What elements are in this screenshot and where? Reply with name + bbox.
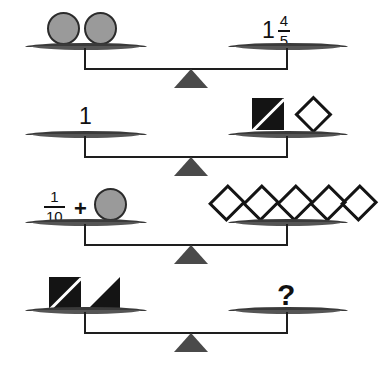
mixed-whole-part: 1 bbox=[262, 17, 275, 44]
pan-shadow bbox=[234, 134, 342, 138]
plus-operator: + bbox=[74, 198, 87, 220]
fulcrum bbox=[174, 69, 208, 88]
right-hanger bbox=[286, 48, 288, 69]
pan-shadow bbox=[31, 134, 141, 138]
circle-weight bbox=[94, 188, 127, 221]
fulcrum bbox=[174, 245, 208, 264]
black-square-with-diagonal-icon bbox=[49, 277, 81, 309]
pan-shadow bbox=[31, 222, 141, 226]
left-hanger bbox=[84, 224, 86, 245]
right-pan bbox=[228, 131, 348, 138]
pan-shadow bbox=[234, 222, 342, 226]
right-hanger bbox=[286, 312, 288, 333]
diamond-icon bbox=[277, 182, 314, 222]
right-pan bbox=[228, 219, 348, 226]
right-pan bbox=[228, 307, 348, 314]
pan-shadow bbox=[31, 46, 141, 50]
right-pan bbox=[228, 43, 348, 50]
fraction-numerator: 1 bbox=[44, 189, 65, 205]
diamond-icon bbox=[294, 95, 332, 133]
balance-puzzle: 1 4 5 1 bbox=[0, 0, 383, 370]
left-hanger bbox=[84, 136, 86, 157]
left-hanger bbox=[84, 312, 86, 333]
balance-row-3: 1 10 + bbox=[0, 176, 383, 264]
diamond-icon bbox=[209, 182, 246, 222]
pan-shadow bbox=[234, 310, 342, 314]
fraction-numerator: 4 bbox=[278, 13, 290, 29]
diagonal-line bbox=[251, 98, 286, 133]
balance-row-4: ? bbox=[0, 264, 383, 352]
circle-weight bbox=[84, 12, 117, 45]
left-hanger bbox=[84, 48, 86, 69]
diamond-outline bbox=[340, 184, 378, 222]
black-triangle-icon bbox=[88, 277, 120, 309]
balance-row-1: 1 4 5 bbox=[0, 0, 383, 88]
balance-row-2: 1 bbox=[0, 88, 383, 176]
left-pan bbox=[25, 307, 147, 314]
right-hanger bbox=[286, 224, 288, 245]
pan-shadow bbox=[31, 310, 141, 314]
black-square-with-diagonal-icon bbox=[252, 98, 284, 130]
pan-shadow bbox=[234, 46, 342, 50]
diamond-icon bbox=[341, 182, 378, 222]
left-pan bbox=[25, 219, 147, 226]
diamond-outline bbox=[294, 95, 332, 133]
left-pan bbox=[25, 131, 147, 138]
number-one-label: 1 bbox=[79, 105, 92, 128]
left-pan bbox=[25, 43, 147, 50]
right-hanger bbox=[286, 136, 288, 157]
fulcrum bbox=[174, 333, 208, 352]
fulcrum bbox=[174, 157, 208, 176]
diamond-icon bbox=[243, 182, 280, 222]
circle-weight bbox=[47, 12, 80, 45]
question-mark-label: ? bbox=[277, 280, 295, 310]
